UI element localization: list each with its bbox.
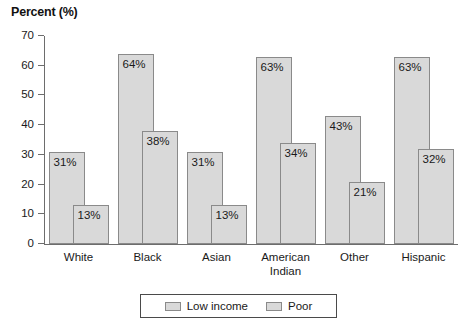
legend-swatch-poor [266,302,282,311]
bar-value-label: 34% [285,147,308,159]
bar-value-label: 63% [399,61,422,73]
bar-value-label: 31% [54,156,77,168]
bar-poor[interactable]: 21% [349,182,385,244]
bar-value-label: 63% [261,61,284,73]
chart-legend: Low income Poor [140,294,337,318]
legend-entry-poor[interactable]: Poor [266,300,312,312]
bar-poor[interactable]: 38% [142,131,178,244]
bar-group: 31%13% [187,36,247,244]
bar-chart: Percent (%) 706050403020100 31%13%64%38%… [0,0,474,328]
bar-value-label: 13% [216,209,239,221]
bar-poor[interactable]: 34% [280,143,316,244]
x-axis-line [44,244,458,245]
legend-label-poor: Poor [288,300,312,312]
legend-swatch-low-income [165,302,181,311]
bar-value-label: 13% [78,209,101,221]
x-category-line: Hispanic [369,250,474,264]
y-tick-label: 50 [21,87,34,102]
bar-group: 63%34% [256,36,316,244]
bar-poor[interactable]: 32% [418,149,454,244]
legend-entry-low-income[interactable]: Low income [165,300,248,312]
x-category-label: Hispanic [369,250,474,264]
bar-poor[interactable]: 13% [73,205,109,244]
bar-value-label: 31% [192,156,215,168]
chart-title: Percent (%) [11,5,78,19]
plot-area: 31%13%64%38%31%13%63%34%43%21%63%32% [44,36,458,244]
bar-group: 63%32% [394,36,454,244]
bar-value-label: 64% [123,58,146,70]
bar-group: 31%13% [49,36,109,244]
y-tick-label: 20 [21,177,34,192]
y-tick-label: 0 [28,236,34,251]
bar-value-label: 32% [423,153,446,165]
bar-poor[interactable]: 13% [211,205,247,244]
bar-value-label: 21% [354,186,377,198]
y-tick-label: 70 [21,28,34,43]
y-tick-label: 30 [21,147,34,162]
bar-value-label: 38% [147,135,170,147]
x-category-line: Indian [231,264,341,278]
y-tick-label: 40 [21,117,34,132]
bar-value-label: 43% [330,120,353,132]
y-tick-label: 10 [21,206,34,221]
bar-group: 64%38% [118,36,178,244]
y-tick-label: 60 [21,58,34,73]
legend-label-low-income: Low income [187,300,248,312]
bar-group: 43%21% [325,36,385,244]
